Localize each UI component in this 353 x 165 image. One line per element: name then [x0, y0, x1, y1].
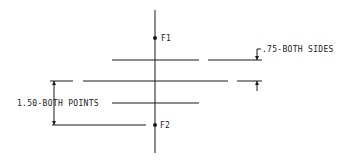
diagram-svg: F1 F2 .75-BOTH SIDES 1.50-BOTH POINTS — [0, 0, 353, 165]
label-f2: F2 — [160, 121, 170, 130]
diagram-canvas: F1 F2 .75-BOTH SIDES 1.50-BOTH POINTS — [0, 0, 353, 165]
focal-point-f1-dot — [153, 36, 157, 40]
label-f1: F1 — [161, 34, 171, 43]
arrowhead-down-icon — [255, 56, 259, 60]
annotation-both-points: 1.50-BOTH POINTS — [17, 99, 99, 108]
dimension-sides — [255, 49, 261, 91]
arrowhead-up-icon — [52, 81, 56, 85]
arrowhead-up-icon — [255, 81, 259, 85]
annotation-both-sides: .75-BOTH SIDES — [262, 45, 334, 54]
focal-point-f2-dot — [153, 123, 157, 127]
arrowhead-down-icon — [52, 121, 56, 125]
